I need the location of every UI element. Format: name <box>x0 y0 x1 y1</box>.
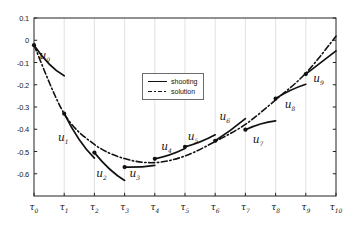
segment-start-marker-u7 <box>243 128 247 132</box>
legend-label-shooting: shooting <box>171 78 197 85</box>
legend-entry-solution: solution <box>148 88 203 95</box>
segment-start-marker-u3 <box>123 165 127 169</box>
segment-label-u9: u9 <box>313 72 324 86</box>
segment-start-marker-u1 <box>62 112 66 116</box>
segment-start-marker-u0 <box>32 43 36 47</box>
x-tick-label: τ6 <box>211 202 220 214</box>
shooting-segment-u1 <box>64 114 94 159</box>
segment-label-u1: u1 <box>58 131 69 145</box>
segment-start-marker-u2 <box>92 151 96 155</box>
y-tick-label: -0.5 <box>17 147 29 156</box>
segment-label-u3: u3 <box>130 167 141 181</box>
segment-label-u0: u0 <box>40 49 51 63</box>
x-tick-label: τ9 <box>301 202 310 214</box>
x-tick-label: τ8 <box>271 202 280 214</box>
segment-label-u6: u6 <box>220 110 231 124</box>
y-tick-label: -0.1 <box>17 58 29 67</box>
x-tick-label: τ3 <box>120 202 129 214</box>
x-tick-label: τ0 <box>30 202 39 214</box>
x-tick-label: τ1 <box>60 202 69 214</box>
legend-entry-shooting: shooting <box>148 78 203 85</box>
legend: shooting solution <box>142 73 204 100</box>
segment-start-marker-u4 <box>153 157 157 161</box>
segment-label-u4: u4 <box>161 140 172 154</box>
legend-dashdot-line-icon <box>148 91 167 93</box>
legend-label-solution: solution <box>171 88 195 95</box>
segment-start-marker-u8 <box>274 96 278 100</box>
segment-label-u7: u7 <box>253 133 264 147</box>
legend-solid-line-icon <box>148 81 167 83</box>
shooting-segment-u9 <box>306 51 336 74</box>
multiple-shooting-figure: shooting solution u0u1u2u3u4u5u6u7u8u90.… <box>0 0 357 228</box>
y-tick-label: -0.3 <box>17 103 29 112</box>
segment-start-marker-u6 <box>213 139 217 143</box>
chart-canvas <box>0 0 357 228</box>
segment-start-marker-u9 <box>304 72 308 76</box>
x-tick-label: τ4 <box>150 202 159 214</box>
x-tick-label: τ2 <box>90 202 99 214</box>
shooting-segment-u7 <box>245 121 275 130</box>
segment-label-u5: u5 <box>188 130 199 144</box>
y-tick-label: 0 <box>25 36 29 45</box>
x-tick-label: τ7 <box>241 202 250 214</box>
segment-label-u2: u2 <box>96 167 107 181</box>
y-tick-label: -0.6 <box>17 169 29 178</box>
y-tick-label: -0.2 <box>17 80 29 89</box>
segment-label-u8: u8 <box>285 98 296 112</box>
y-tick-label: -0.4 <box>17 125 29 134</box>
x-tick-label: τ5 <box>181 202 190 214</box>
segment-start-marker-u5 <box>183 145 187 149</box>
x-tick-label: τ10 <box>330 202 343 214</box>
y-tick-label: 0.1 <box>19 14 29 23</box>
